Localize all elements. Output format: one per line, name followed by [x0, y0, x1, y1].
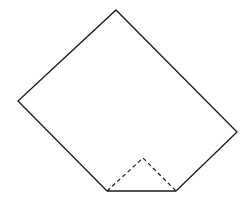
fold-diagram	[0, 0, 249, 198]
diagram-canvas	[0, 0, 249, 198]
fold-line-dashed	[107, 158, 176, 191]
sheet-outline	[18, 10, 237, 191]
